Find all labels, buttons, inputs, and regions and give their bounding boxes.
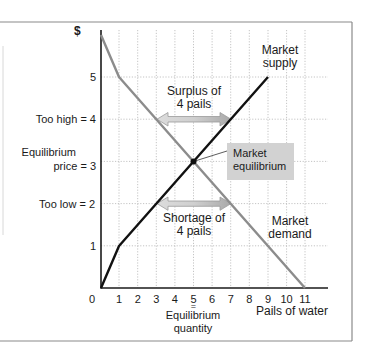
supply-demand-chart: $ 5 Too high = 4 Equilibrium price = 3 T… — [0, 0, 366, 362]
x-tick-6: 6 — [202, 293, 222, 306]
y-tick-too-low-2: Too low = 2 — [39, 198, 95, 211]
demand-label-line2: demand — [260, 228, 320, 241]
x-tick-2: 2 — [128, 293, 148, 306]
y-tick-5: 5 — [90, 71, 96, 84]
equilibrium-box-line1: Market — [233, 147, 288, 160]
x-tick-3: 3 — [146, 293, 166, 306]
equilibrium-box-line2: equilibrium — [233, 160, 288, 173]
supply-label-line2: supply — [250, 57, 310, 70]
y-tick-equilibrium-price-3: price = 3 — [54, 160, 97, 173]
surplus-label-line2: 4 pails — [154, 98, 234, 111]
x-axis-label: Pails of water — [256, 305, 328, 318]
demand-label: Market demand — [260, 215, 320, 241]
x-tick-7: 7 — [221, 293, 241, 306]
y-tick-1: 1 — [90, 240, 96, 253]
shortage-label: Shortage of 4 pails — [152, 212, 236, 238]
equilibrium-quantity-label: Equilibrium quantity — [153, 309, 233, 335]
x-tick-4: 4 — [165, 293, 185, 306]
y-tick-too-high-4: Too high = 4 — [36, 113, 96, 126]
supply-label: Market supply — [250, 44, 310, 70]
y-tick-equilibrium-price-label: Equilibrium — [22, 146, 76, 159]
equilibrium-quantity-line1: Equilibrium — [153, 309, 233, 322]
shortage-arrow — [157, 197, 231, 210]
shortage-label-line2: 4 pails — [152, 225, 236, 238]
equilibrium-point — [191, 158, 197, 164]
x-tick-0: 0 — [89, 293, 95, 306]
equilibrium-quantity-line2: quantity — [153, 322, 233, 335]
market-equilibrium-box: Market equilibrium — [227, 143, 294, 180]
surplus-arrow — [157, 113, 231, 127]
surplus-label: Surplus of 4 pails — [154, 85, 234, 111]
y-axis-label: $ — [74, 25, 81, 38]
x-tick-1: 1 — [109, 293, 129, 306]
